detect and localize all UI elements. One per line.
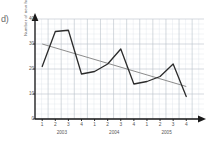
x-tick-label: 3 (168, 122, 178, 127)
x-tick-label: 4 (181, 122, 191, 127)
y-tick-label: 30 (20, 41, 34, 46)
series-group (42, 30, 186, 96)
y-tick-label: 10 (20, 91, 34, 96)
data-line (42, 30, 186, 96)
x-tick-label: 1 (37, 122, 47, 127)
x-tick-label: 2 (155, 122, 165, 127)
y-tick-label: 40 (20, 16, 34, 21)
figure-panel: d) Number of new homes 010203040 1234123… (0, 0, 208, 148)
x-tick-label: 4 (129, 122, 139, 127)
x-tick-label: 3 (63, 122, 73, 127)
chart-plot-area: Number of new homes 010203040 1234123412… (0, 0, 208, 148)
x-tick-label: 4 (76, 122, 86, 127)
y-tick-label: 0 (20, 116, 34, 121)
x-tick-label: 2 (50, 122, 60, 127)
y-tick-label: 20 (20, 66, 34, 71)
trend-line (42, 44, 186, 87)
x-tick-label: 1 (90, 122, 100, 127)
x-tick-label: 3 (116, 122, 126, 127)
x-year-label: 2005 (155, 130, 179, 135)
x-tick-label: 1 (142, 122, 152, 127)
x-year-label: 2003 (50, 130, 74, 135)
x-tick-labels: 123412341234200320042005 (0, 122, 208, 142)
x-tick-label: 2 (103, 122, 113, 127)
x-year-label: 2004 (102, 130, 126, 135)
